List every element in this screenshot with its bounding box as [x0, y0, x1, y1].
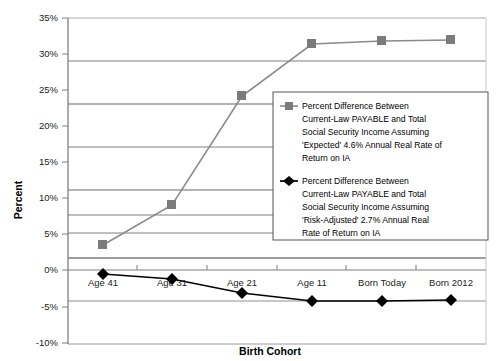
legend-risk-line-2: Current-Law PAYABLE and Total — [302, 189, 426, 199]
y-tick-label-0: 0% — [44, 264, 58, 275]
legend-risk-line-4: 'Risk-Adjusted' 2.7% Annual Real — [302, 215, 429, 225]
y-tick-label-30: 30% — [39, 48, 59, 59]
x-axis-title: Birth Cohort — [239, 345, 301, 357]
y-tick-label-5: 5% — [44, 228, 58, 239]
x-tick-label-5: Born 2012 — [429, 277, 473, 288]
y-axis-title: Percent — [12, 180, 24, 219]
chart-legend: Percent Difference Between Current-Law P… — [273, 92, 488, 240]
line-chart: 35% 30% 25% 20% 15% 10% 5% 0% -5% -10% P… — [0, 0, 501, 361]
x-tick-label-2: Age 21 — [227, 277, 257, 288]
x-tick-label-4: Born Today — [358, 277, 406, 288]
y-tick-label-15: 15% — [39, 156, 59, 167]
legend-expected-line-1: Percent Difference Between — [302, 101, 409, 111]
y-tick-label-10: 10% — [39, 192, 59, 203]
square-marker-icon — [285, 102, 293, 110]
series-expected-point-3 — [307, 39, 316, 48]
y-tick-label-35: 35% — [39, 12, 59, 23]
legend-expected-line-3: Social Security Income Assuming — [302, 127, 429, 137]
x-tick-label-3: Age 11 — [297, 277, 326, 288]
series-expected-point-5 — [446, 35, 455, 44]
series-expected-point-4 — [377, 36, 386, 45]
chart-container: 35% 30% 25% 20% 15% 10% 5% 0% -5% -10% P… — [0, 0, 501, 361]
legend-risk-line-3: Social Security Income Assuming — [302, 202, 429, 212]
series-expected-point-2 — [237, 91, 246, 100]
y-axis-ticks — [62, 18, 68, 343]
y-tick-label-neg10: -10% — [36, 337, 59, 348]
series-expected-point-0 — [98, 240, 107, 249]
legend-expected-line-5: Return on IA — [302, 153, 351, 163]
legend-risk-line-1: Percent Difference Between — [302, 176, 409, 186]
legend-risk-line-5: Rate of Return on IA — [302, 228, 381, 238]
y-tick-label-20: 20% — [39, 120, 59, 131]
y-tick-label-neg5: -5% — [41, 301, 58, 312]
y-tick-label-25: 25% — [39, 84, 59, 95]
series-expected-point-1 — [167, 200, 176, 209]
legend-expected-line-2: Current-Law PAYABLE and Total — [302, 114, 426, 124]
legend-expected-line-4: 'Expected' 4.6% Annual Real Rate of — [302, 140, 443, 150]
